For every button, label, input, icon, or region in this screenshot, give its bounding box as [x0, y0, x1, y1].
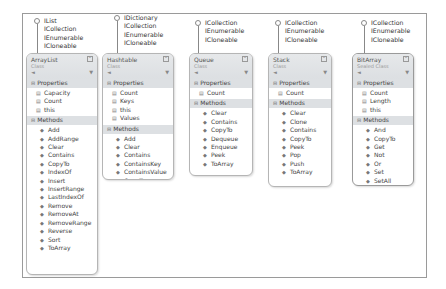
methods-section-header[interactable]: ⊟Methods: [269, 99, 331, 108]
method-item[interactable]: ◆ContainsValue: [103, 168, 173, 176]
method-item[interactable]: ◆LastIndexOf: [27, 193, 97, 201]
method-item[interactable]: ◆IndexOf: [27, 168, 97, 176]
expand-arrow-icon[interactable]: ◄: [273, 69, 277, 75]
property-item[interactable]: ▤Count: [103, 89, 173, 97]
filter-icon[interactable]: ▼: [89, 69, 93, 75]
method-item[interactable]: ◆Reverse: [27, 227, 97, 235]
method-item[interactable]: ◆Contains: [190, 118, 252, 126]
method-item[interactable]: ◆CopyTo: [190, 126, 252, 134]
class-shape-queue[interactable]: QueueClass⌃◄▼⊟Properties▤Count⊟Methods◆C…: [189, 53, 253, 176]
method-item[interactable]: ◆CopyTo: [353, 135, 413, 143]
property-item[interactable]: ▤this: [27, 106, 97, 114]
property-item[interactable]: ▤this: [103, 106, 173, 114]
property-item[interactable]: ▤this: [353, 106, 413, 114]
collapse-icon[interactable]: ⌃: [163, 56, 169, 62]
method-item[interactable]: ◆CopyTo: [269, 135, 331, 143]
method-item[interactable]: ◆Dequeue: [190, 135, 252, 143]
expand-arrow-icon[interactable]: ◄: [357, 69, 361, 75]
expand-arrow-icon[interactable]: ◄: [107, 69, 111, 75]
method-item[interactable]: ◆RemoveRange: [27, 219, 97, 227]
method-item[interactable]: ◆ToArray: [269, 168, 331, 176]
class-header[interactable]: QueueClass⌃◄▼: [190, 54, 252, 79]
filter-icon[interactable]: ▼: [165, 69, 169, 75]
method-item[interactable]: ◆Or: [353, 160, 413, 168]
properties-section-header[interactable]: ⊟Properties: [353, 79, 413, 88]
method-item[interactable]: ◆Peek: [269, 143, 331, 151]
class-header[interactable]: HashtableClass⌃◄▼: [103, 54, 173, 79]
property-item[interactable]: ▤Capacity: [27, 89, 97, 97]
minus-box-icon[interactable]: ⊟: [107, 126, 111, 132]
method-item[interactable]: ◆ContainsKey: [103, 160, 173, 168]
method-item[interactable]: ◆Clear: [190, 109, 252, 117]
property-item[interactable]: ▤Values: [103, 114, 173, 122]
method-item[interactable]: ◆And: [353, 126, 413, 134]
class-header[interactable]: StackClass⌃◄▼: [269, 54, 331, 79]
method-item[interactable]: ◆SetAll: [353, 177, 413, 185]
method-item[interactable]: ◆AddRange: [27, 135, 97, 143]
method-item[interactable]: ◆Set: [353, 168, 413, 176]
properties-section-header[interactable]: ⊟Properties: [190, 79, 252, 88]
method-item[interactable]: ◆Clear: [27, 143, 97, 151]
method-item[interactable]: ◆Clear: [269, 109, 331, 117]
filter-icon[interactable]: ▼: [323, 69, 327, 75]
method-item[interactable]: ◆Peek: [190, 151, 252, 159]
method-item[interactable]: ◆ToArray: [27, 244, 97, 252]
methods-section-header[interactable]: ⊟Methods: [353, 116, 413, 125]
class-shape-hashtable[interactable]: HashtableClass⌃◄▼⊟Properties▤Count▤Keys▤…: [102, 53, 174, 180]
expand-arrow-icon[interactable]: ◄: [194, 69, 198, 75]
minus-box-icon[interactable]: ⊟: [107, 80, 111, 86]
class-shape-stack[interactable]: StackClass⌃◄▼⊟Properties▤Count⊟Methods◆C…: [268, 53, 332, 187]
minus-box-icon[interactable]: ⊟: [194, 100, 198, 106]
minus-box-icon[interactable]: ⊟: [273, 100, 277, 106]
method-item[interactable]: ◆Pop: [269, 151, 331, 159]
method-item[interactable]: ◆Sort: [27, 236, 97, 244]
properties-section-header[interactable]: ⊟Properties: [27, 79, 97, 88]
expand-arrow-icon[interactable]: ◄: [31, 69, 35, 75]
class-shape-arraylist[interactable]: ArrayListClass⌃◄▼⊟Properties▤Capacity▤Co…: [26, 53, 98, 275]
collapse-icon[interactable]: ⌃: [242, 56, 248, 62]
collapse-icon[interactable]: ⌃: [87, 56, 93, 62]
method-item[interactable]: ◆Clone: [269, 118, 331, 126]
methods-section-header[interactable]: ⊟Methods: [103, 125, 173, 134]
minus-box-icon[interactable]: ⊟: [31, 80, 35, 86]
property-item[interactable]: ▤Count: [27, 97, 97, 105]
property-item[interactable]: ▤Keys: [103, 97, 173, 105]
methods-section-header[interactable]: ⊟Methods: [190, 99, 252, 108]
minus-box-icon[interactable]: ⊟: [31, 117, 35, 123]
class-header[interactable]: BitArraySealed Class⌃◄▼: [353, 54, 413, 79]
methods-section-header[interactable]: ⊟Methods: [27, 116, 97, 125]
method-item[interactable]: ◆Remove: [27, 202, 97, 210]
method-item[interactable]: ◆Add: [103, 135, 173, 143]
minus-box-icon[interactable]: ⊟: [357, 117, 361, 123]
minus-box-icon[interactable]: ⊟: [273, 80, 277, 86]
property-item[interactable]: ▤Length: [353, 97, 413, 105]
collapse-icon[interactable]: ⌃: [403, 56, 409, 62]
method-item[interactable]: ◆Get: [353, 143, 413, 151]
method-item[interactable]: ◆ToArray: [190, 160, 252, 168]
properties-section-header[interactable]: ⊟Properties: [269, 79, 331, 88]
method-item[interactable]: ◆Contains: [269, 126, 331, 134]
method-item[interactable]: ◆Clear: [103, 143, 173, 151]
method-item[interactable]: ◆RemoveAt: [27, 210, 97, 218]
collapse-icon[interactable]: ⌃: [321, 56, 327, 62]
method-item[interactable]: ◆CopyTo: [103, 177, 173, 180]
method-item[interactable]: ◆Contains: [27, 151, 97, 159]
method-item[interactable]: ◆InsertRange: [27, 185, 97, 193]
method-item[interactable]: ◆Enqueue: [190, 143, 252, 151]
property-item[interactable]: ▤Count: [269, 89, 331, 97]
method-item[interactable]: ◆Contains: [103, 151, 173, 159]
filter-icon[interactable]: ▼: [244, 69, 248, 75]
minus-box-icon[interactable]: ⊟: [194, 80, 198, 86]
minus-box-icon[interactable]: ⊟: [357, 80, 361, 86]
method-item[interactable]: ◆Push: [269, 160, 331, 168]
property-item[interactable]: ▤Count: [353, 89, 413, 97]
filter-icon[interactable]: ▼: [405, 69, 409, 75]
class-header[interactable]: ArrayListClass⌃◄▼: [27, 54, 97, 79]
class-shape-bitarray[interactable]: BitArraySealed Class⌃◄▼⊟Properties▤Count…: [352, 53, 414, 186]
method-item[interactable]: ◆Not: [353, 151, 413, 159]
properties-section-header[interactable]: ⊟Properties: [103, 79, 173, 88]
method-item[interactable]: ◆Xor: [353, 185, 413, 186]
method-item[interactable]: ◆Add: [27, 126, 97, 134]
property-item[interactable]: ▤Count: [190, 89, 252, 97]
method-item[interactable]: ◆CopyTo: [27, 160, 97, 168]
